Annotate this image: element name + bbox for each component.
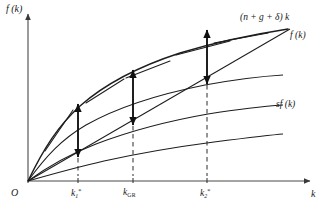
x-tick-label-k-golden-rule: kGR (123, 188, 136, 199)
tick-sup-k-star-1: * (78, 187, 81, 194)
tangent-mark (214, 33, 268, 43)
depreciation-line (28, 29, 290, 181)
saving-curve-label: sf (k) (276, 100, 295, 110)
tick-sup-k-star-2: * (207, 187, 210, 194)
axes-group (28, 14, 310, 183)
consumption-gap-arrows (78, 30, 207, 157)
tick-sub-k-golden-rule: GR (127, 192, 136, 198)
origin-label: O (11, 188, 18, 198)
x-tick-label-k-star-1: k1* (71, 188, 81, 199)
solow-golden-rule-diagram: f (k) (n + g + δ) k f (k) sf (k) O k k1*… (0, 0, 325, 211)
production-function-label: f (k) (290, 31, 306, 41)
saving-curve-mid (28, 105, 283, 181)
y-axis-label: f (k) (6, 4, 22, 14)
depreciation-line-label: (n + g + δ) k (240, 13, 289, 23)
saving-curve-high (28, 75, 283, 181)
tangent-mark (176, 41, 230, 55)
tangent-mark (86, 79, 124, 103)
x-tick-label-k-star-2: k2* (200, 188, 210, 199)
x-axis-label: k (311, 189, 315, 199)
